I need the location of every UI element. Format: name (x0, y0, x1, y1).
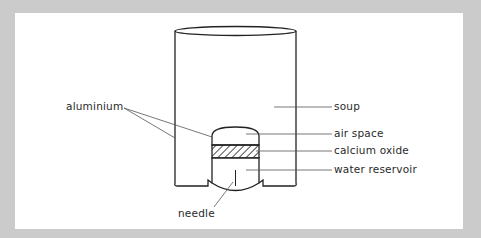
label-soup: soup (334, 101, 360, 112)
can-right-wall (259, 31, 296, 186)
label-needle: needle (178, 208, 215, 219)
can-left-wall (175, 31, 212, 186)
label-air-space: air space (334, 128, 384, 139)
can-top-rim (175, 27, 296, 36)
inner-container (212, 127, 259, 191)
label-aluminium: aluminium (66, 101, 123, 112)
soup-can-diagram (0, 0, 481, 238)
label-water-reservoir: water reservoir (334, 164, 417, 175)
leader-aluminium-inner (124, 108, 212, 137)
label-calcium-oxide: calcium oxide (334, 145, 409, 156)
air-space-dome (212, 127, 259, 145)
leader-aluminium-can (124, 108, 175, 138)
calcium-oxide-layer (212, 145, 259, 158)
